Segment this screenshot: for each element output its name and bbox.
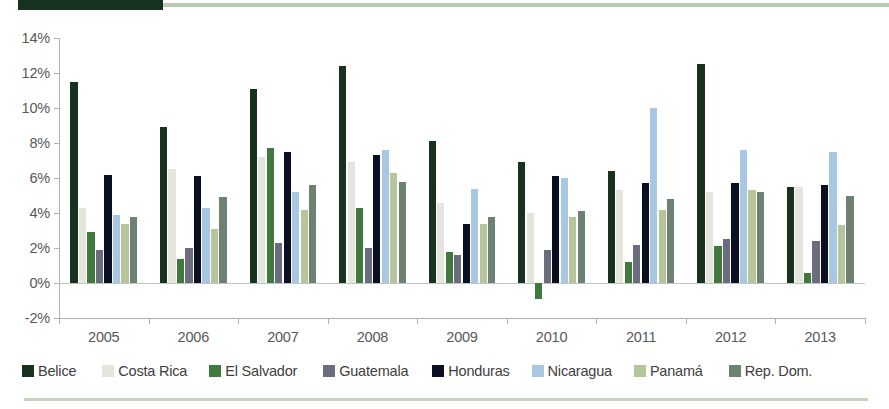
bar bbox=[535, 283, 542, 299]
bar bbox=[202, 208, 209, 283]
x-axis-label: 2012 bbox=[715, 329, 746, 345]
bar bbox=[177, 259, 184, 284]
bar bbox=[168, 169, 175, 283]
legend-swatch-icon bbox=[532, 365, 544, 377]
bar bbox=[480, 224, 487, 284]
bar bbox=[706, 192, 713, 283]
chart-legend: BeliceCosta RicaEl SalvadorGuatemalaHond… bbox=[22, 360, 872, 382]
bar bbox=[446, 252, 453, 284]
legend-swatch-icon bbox=[729, 365, 741, 377]
bar bbox=[838, 225, 845, 283]
legend-label: Belice bbox=[38, 363, 76, 379]
legend-item-panam[interactable]: Panamá bbox=[634, 363, 703, 379]
bar bbox=[399, 182, 406, 284]
bar bbox=[382, 150, 389, 283]
y-axis-label: 10% bbox=[22, 100, 50, 116]
bar bbox=[787, 187, 794, 283]
bar bbox=[616, 190, 623, 283]
bar bbox=[348, 162, 355, 283]
bar bbox=[667, 199, 674, 283]
footer-rule bbox=[24, 398, 868, 401]
bar bbox=[552, 176, 559, 283]
x-axis-tick bbox=[59, 318, 60, 324]
y-axis-label: 12% bbox=[22, 65, 50, 81]
x-axis-line bbox=[59, 318, 865, 319]
bar bbox=[544, 250, 551, 283]
legend-item-belice[interactable]: Belice bbox=[22, 363, 76, 379]
bar bbox=[194, 176, 201, 283]
bar bbox=[569, 217, 576, 284]
bar bbox=[795, 187, 802, 283]
y-axis-label: 6% bbox=[29, 170, 50, 186]
bar bbox=[211, 229, 218, 283]
y-axis-label: 0% bbox=[29, 275, 50, 291]
legend-swatch-icon bbox=[22, 365, 34, 377]
bar bbox=[488, 217, 495, 284]
legend-label: Nicaragua bbox=[548, 363, 612, 379]
bar bbox=[518, 162, 525, 283]
x-axis-tick bbox=[328, 318, 329, 324]
x-axis-tick bbox=[686, 318, 687, 324]
bar bbox=[356, 208, 363, 283]
y-axis-label: 8% bbox=[29, 135, 50, 151]
bar bbox=[821, 185, 828, 283]
x-axis-tick bbox=[775, 318, 776, 324]
legend-label: Rep. Dom. bbox=[745, 363, 813, 379]
bar bbox=[79, 208, 86, 283]
x-axis-label: 2007 bbox=[267, 329, 298, 345]
bar bbox=[301, 210, 308, 284]
legend-item-rep-dom[interactable]: Rep. Dom. bbox=[729, 363, 813, 379]
header-rule-dark bbox=[18, 0, 163, 10]
bar bbox=[561, 178, 568, 283]
bar bbox=[463, 224, 470, 284]
legend-label: Costa Rica bbox=[118, 363, 187, 379]
y-axis-label: 2% bbox=[29, 240, 50, 256]
bar bbox=[625, 262, 632, 283]
bar bbox=[527, 213, 534, 283]
legend-label: Panamá bbox=[650, 363, 703, 379]
bar bbox=[309, 185, 316, 283]
bar bbox=[185, 248, 192, 283]
legend-item-costa-rica[interactable]: Costa Rica bbox=[102, 363, 187, 379]
bar bbox=[757, 192, 764, 283]
bar bbox=[437, 203, 444, 284]
bar bbox=[650, 108, 657, 283]
bar bbox=[267, 148, 274, 283]
bar bbox=[731, 183, 738, 283]
bar bbox=[121, 224, 128, 284]
bar bbox=[471, 189, 478, 284]
x-axis-tick bbox=[417, 318, 418, 324]
bar bbox=[96, 250, 103, 283]
x-axis-tick bbox=[238, 318, 239, 324]
legend-item-honduras[interactable]: Honduras bbox=[432, 363, 509, 379]
y-axis-label: -2% bbox=[25, 310, 50, 326]
bar bbox=[87, 232, 94, 283]
legend-label: El Salvador bbox=[225, 363, 297, 379]
bar bbox=[429, 141, 436, 283]
legend-label: Honduras bbox=[448, 363, 509, 379]
legend-item-guatemala[interactable]: Guatemala bbox=[323, 363, 408, 379]
legend-item-nicaragua[interactable]: Nicaragua bbox=[532, 363, 612, 379]
bar bbox=[339, 66, 346, 283]
plot-area: 14%12%10%8%6%4%2%0%-2% bbox=[59, 30, 865, 318]
bar bbox=[804, 273, 811, 284]
bar bbox=[292, 192, 299, 283]
x-axis-tick bbox=[865, 318, 866, 324]
legend-item-el-salvador[interactable]: El Salvador bbox=[209, 363, 297, 379]
bar bbox=[697, 64, 704, 283]
legend-swatch-icon bbox=[102, 365, 114, 377]
legend-swatch-icon bbox=[432, 365, 444, 377]
legend-swatch-icon bbox=[209, 365, 221, 377]
bar bbox=[365, 248, 372, 283]
bar bbox=[219, 197, 226, 283]
bar bbox=[454, 255, 461, 283]
x-axis-label: 2009 bbox=[446, 329, 477, 345]
x-axis-label: 2006 bbox=[178, 329, 209, 345]
bar bbox=[642, 183, 649, 283]
x-axis-label: 2010 bbox=[536, 329, 567, 345]
bar bbox=[160, 127, 167, 283]
bar bbox=[104, 175, 111, 284]
bar bbox=[390, 173, 397, 283]
legend-swatch-icon bbox=[323, 365, 335, 377]
bar bbox=[578, 211, 585, 283]
